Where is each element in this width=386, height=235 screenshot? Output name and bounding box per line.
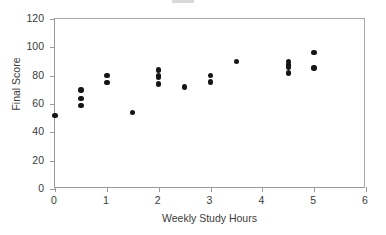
y-axis-tick-label: 20 [32,155,44,166]
y-axis-tick-labels: 020406080100120 [0,18,44,188]
data-point [78,103,83,108]
y-axis-title: Final Score [10,24,22,144]
x-axis-tick-label: 4 [258,195,264,206]
data-point [78,87,83,92]
y-axis-tick-label: 120 [26,13,44,24]
y-axis-tick-label: 60 [32,98,44,109]
plot-area [54,18,365,188]
data-point [311,50,316,55]
data-points-layer [55,19,364,187]
data-point [286,64,291,69]
data-point [130,110,135,115]
x-axis-tick [262,187,263,192]
data-point [156,74,161,79]
data-point [156,67,161,72]
y-axis-tick-label: 40 [32,126,44,137]
x-axis-tick-label: 5 [310,195,316,206]
y-axis-tick-label: 80 [32,70,44,81]
data-point [52,113,57,118]
data-point [182,84,187,89]
data-point [156,81,161,86]
y-axis-tick [50,47,55,48]
y-axis-tick-label: 0 [38,183,44,194]
y-axis-tick [50,76,55,77]
scatter-plot-figure: 020406080100120 0123456 Weekly Study Hou… [0,0,386,235]
data-point [286,70,291,75]
y-axis-tick-label: 100 [26,41,44,52]
x-axis-tick [366,187,367,192]
data-point [311,65,316,70]
data-point [104,73,109,78]
x-axis-tick [314,187,315,192]
data-point [234,59,239,64]
data-point [208,73,213,78]
data-point [78,96,83,101]
x-axis-tick-label: 0 [51,195,57,206]
data-point [104,80,109,85]
x-axis-tick-label: 3 [207,195,213,206]
y-axis-tick [50,161,55,162]
x-axis-tick [55,187,56,192]
x-axis-tick-label: 2 [155,195,161,206]
y-axis-tick [50,104,55,105]
x-axis-tick-label: 1 [103,195,109,206]
top-edge-artifact [172,0,194,3]
data-point [208,79,213,84]
x-axis-title: Weekly Study Hours [54,212,365,224]
y-axis-tick [50,19,55,20]
x-axis-tick [107,187,108,192]
y-axis-tick [50,132,55,133]
x-axis-tick-label: 6 [362,195,368,206]
x-axis-tick-labels: 0123456 [54,195,365,209]
x-axis-tick [211,187,212,192]
x-axis-tick [159,187,160,192]
